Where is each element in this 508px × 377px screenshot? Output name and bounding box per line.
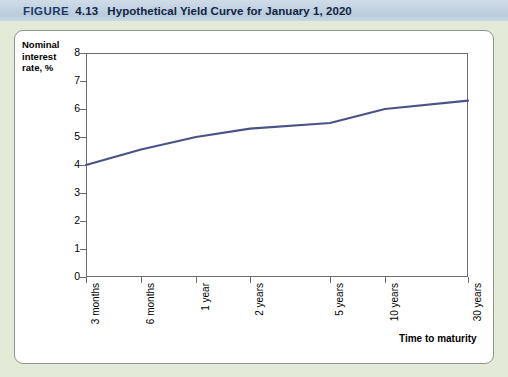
figure-screenshot: FIGURE 4.13 Hypothetical Yield Curve for… xyxy=(0,0,508,377)
page-edge-bleed xyxy=(0,366,508,377)
yield-curve-line xyxy=(86,101,468,165)
yield-curve-svg xyxy=(0,0,508,377)
